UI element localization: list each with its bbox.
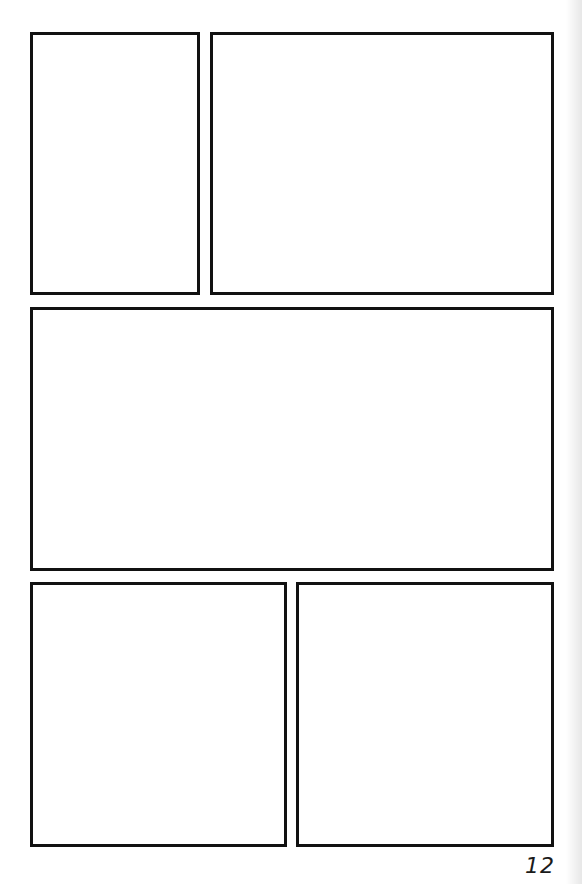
panel-4[interactable] <box>30 582 287 847</box>
panel-5[interactable] <box>296 582 554 847</box>
panel-3[interactable] <box>30 307 554 571</box>
panel-1[interactable] <box>30 32 200 295</box>
page-edge-shadow <box>566 0 582 884</box>
page-number: 12 <box>515 853 555 878</box>
panel-2[interactable] <box>210 32 554 295</box>
